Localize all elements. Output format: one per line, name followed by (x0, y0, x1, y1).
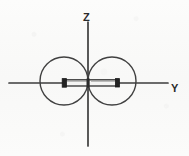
dipole-right-arm (89, 80, 118, 86)
dipole-radiation-pattern-figure: Z Y (0, 0, 189, 156)
left-end-cap (62, 79, 66, 88)
z-axis-label: Z (83, 12, 90, 23)
right-end-cap (115, 79, 119, 87)
dipole-feed-point (87, 78, 90, 87)
dipole-left-arm (65, 80, 88, 86)
y-axis-label: Y (171, 83, 178, 94)
figure-canvas (0, 0, 189, 156)
dipole-antenna-group (62, 78, 119, 87)
